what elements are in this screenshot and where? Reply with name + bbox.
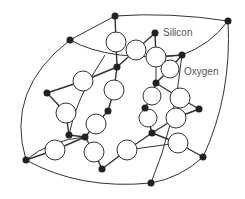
oxygen-atom <box>170 88 190 108</box>
silicon-atom <box>153 80 160 87</box>
silicon-atom <box>149 130 156 137</box>
oxygen-atom <box>139 109 157 127</box>
silicon-atom <box>225 18 232 25</box>
oxygen-atom <box>56 103 76 123</box>
boundary-bottom <box>26 160 151 184</box>
oxygen-atom <box>84 142 104 162</box>
silicon-atom <box>66 132 73 139</box>
oxygen-atom <box>106 32 126 52</box>
oxygen-atom <box>168 133 188 153</box>
silicon-atom <box>99 166 106 173</box>
silicon-atom <box>44 90 51 97</box>
silicon-atom <box>148 180 155 187</box>
oxygen-atom <box>86 114 106 134</box>
silicon-oxygen-network-diagram: Silicon Oxygen <box>0 0 245 199</box>
boundary-bottom-right <box>151 157 203 183</box>
network-svg <box>0 0 245 199</box>
silicon-atom <box>112 13 119 20</box>
oxygen-atom <box>126 40 146 60</box>
silicon-atom <box>179 52 186 59</box>
oxygen-atom <box>104 80 124 100</box>
oxygen-label: Oxygen <box>184 66 218 77</box>
oxygen-atom <box>73 71 93 91</box>
oxygen-atom <box>161 60 179 78</box>
oxygen-atom <box>117 140 137 160</box>
oxygen-atoms <box>45 32 190 162</box>
oxygen-atom <box>45 140 65 160</box>
silicon-atom <box>152 30 159 37</box>
silicon-atom <box>23 157 30 164</box>
oxygen-atom <box>143 87 161 105</box>
silicon-atom <box>105 108 112 115</box>
silicon-atom <box>82 134 89 141</box>
silicon-atom <box>142 105 149 112</box>
boundary-left <box>21 40 70 160</box>
silicon-atom <box>67 37 74 44</box>
silicon-atom <box>200 154 207 161</box>
silicon-atom <box>114 64 121 71</box>
silicon-atom <box>196 106 203 113</box>
silicon-label: Silicon <box>163 27 192 38</box>
boundary-top <box>115 15 228 21</box>
oxygen-atom <box>166 108 186 128</box>
